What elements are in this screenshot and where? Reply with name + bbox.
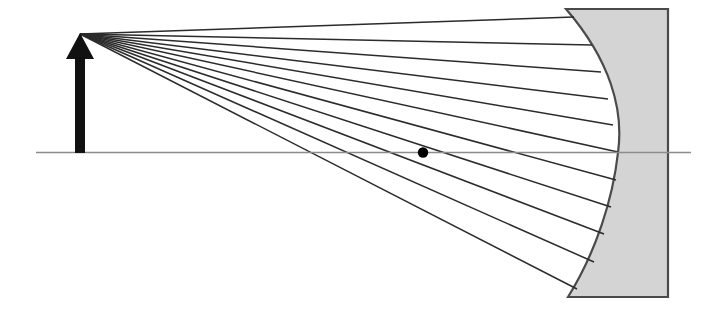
incident-ray	[80, 34, 577, 289]
incident-ray	[80, 34, 611, 207]
optics-diagram-canvas: Concave mirror ray diagram	[0, 0, 709, 319]
incident-ray	[80, 17, 574, 34]
incident-ray	[80, 34, 604, 234]
ray-diagram-figure: Concave mirror ray diagram	[0, 0, 709, 319]
incident-ray	[80, 34, 616, 180]
incident-ray	[80, 34, 613, 125]
object-arrow	[66, 33, 94, 153]
incident-ray	[80, 34, 594, 262]
incident-ray	[80, 34, 618, 152]
focal-point-dot	[418, 147, 428, 157]
